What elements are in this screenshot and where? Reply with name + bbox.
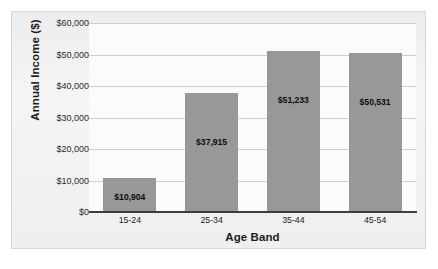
chart-plot-container: Annual Income ($) $0$10,000$20,000$30,00… (12, 12, 425, 248)
plot-area: $10,904$37,915$51,233$50,531 (89, 23, 416, 212)
y-axis-tick-labels: $0$10,000$20,000$30,000$40,000$50,000$60… (32, 12, 89, 249)
x-tick-label: 15-24 (89, 215, 171, 225)
y-tick-label: $40,000 (37, 81, 89, 91)
bar-value-label: $50,531 (349, 97, 402, 107)
x-tick-label: 35-44 (253, 215, 335, 225)
x-tick-label: 25-34 (171, 215, 253, 225)
bar (349, 53, 402, 212)
x-axis-tick-labels: 15-2425-3435-4445-54 (89, 215, 416, 231)
y-tick-label: $0 (37, 207, 89, 217)
x-axis-line (89, 211, 417, 213)
bar-series: $10,904$37,915$51,233$50,531 (89, 23, 416, 212)
y-tick-label: $60,000 (37, 18, 89, 28)
bar-value-label: $37,915 (185, 137, 238, 147)
bar (267, 51, 320, 212)
y-tick-label: $10,000 (37, 176, 89, 186)
y-tick-label: $50,000 (37, 50, 89, 60)
bar-value-label: $10,904 (103, 192, 156, 202)
chart-frame: Annual Income ($) $0$10,000$20,000$30,00… (11, 11, 426, 249)
x-axis-title: Age Band (89, 231, 416, 243)
y-tick-label: $20,000 (37, 144, 89, 154)
x-tick-label: 45-54 (334, 215, 416, 225)
y-tick-label: $30,000 (37, 113, 89, 123)
bar-value-label: $51,233 (267, 95, 320, 105)
bar (185, 93, 238, 212)
